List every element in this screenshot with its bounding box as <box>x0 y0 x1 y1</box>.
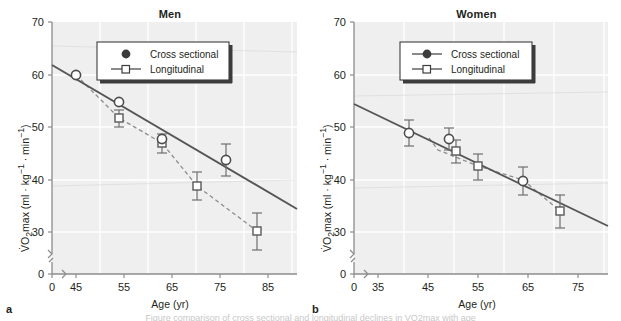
legend-label-cross-sectional: Cross sectional <box>451 49 519 60</box>
y-tick-label: 0 <box>38 268 44 280</box>
y-axis-label-women: V̇O2max (ml · kg−1 · min−1) <box>318 124 336 252</box>
legend-shadow <box>100 80 232 84</box>
plot-area-women: 70 60 50 40 30 0 0 35 45 55 65 75 <box>310 0 621 321</box>
x-tick-label: 0 <box>49 281 55 293</box>
legend-label-longitudinal: Longitudinal <box>451 64 505 75</box>
y-tick-label: 70 <box>334 16 346 28</box>
x-tick-label: 35 <box>372 281 384 293</box>
figure-two-panel-chart: Men <box>0 0 621 321</box>
x-tick-label: 0 <box>351 281 357 293</box>
x-tick-label: 65 <box>166 281 178 293</box>
panel-women: Women <box>310 0 621 321</box>
y-tick-label: 60 <box>32 69 44 81</box>
legend-shadow-right <box>532 45 536 83</box>
legend-shadow-right <box>229 45 233 83</box>
legend-shadow <box>403 80 535 84</box>
legend-label-longitudinal: Longitudinal <box>150 64 204 75</box>
y-tick-label: 0 <box>340 268 346 280</box>
x-axis-label-men: Age (yr) <box>50 298 290 310</box>
x-tick-label: 55 <box>118 281 130 293</box>
x-tick-label: 45 <box>70 281 82 293</box>
x-tick-label: 45 <box>422 281 434 293</box>
x-tick-label: 55 <box>472 281 484 293</box>
legend-marker-cross-sectional <box>122 50 131 59</box>
figure-caption-clipped: Figure comparison of cross sectional and… <box>0 313 621 321</box>
y-axis-label-men: V̇O2max (ml · kg−1 · min−1) <box>16 124 34 252</box>
x-tick-label: 75 <box>214 281 226 293</box>
legend-women: Cross sectional Longitudinal <box>400 42 536 84</box>
x-tick-label: 75 <box>572 281 584 293</box>
x-axis-label-women: Age (yr) <box>352 298 602 310</box>
panel-men: Men <box>0 0 310 321</box>
x-tick-label: 65 <box>522 281 534 293</box>
legend-marker-longitudinal <box>122 66 130 74</box>
y-tick-label: 70 <box>32 16 44 28</box>
y-tick-label: 60 <box>334 69 346 81</box>
legend-marker-cross-sectional <box>423 50 432 59</box>
legend-label-cross-sectional: Cross sectional <box>150 49 218 60</box>
x-tick-label: 85 <box>262 281 274 293</box>
plot-area-men: 70 60 50 40 30 0 0 45 55 65 75 85 <box>0 0 310 321</box>
legend-men: Cross sectional Longitudinal <box>97 42 233 84</box>
legend-marker-longitudinal <box>423 66 431 74</box>
